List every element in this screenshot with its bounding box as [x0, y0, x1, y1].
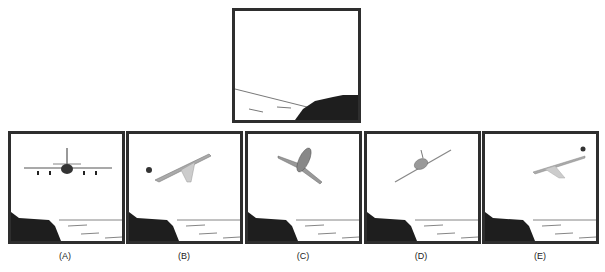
- cliff-shape: [11, 212, 61, 241]
- option-panel-b[interactable]: [126, 131, 243, 244]
- option-label-e: (E): [520, 251, 560, 261]
- scene-d: [367, 134, 478, 241]
- scene-c: [248, 134, 359, 241]
- option-label-b: (B): [164, 251, 204, 261]
- cliff-shape: [485, 212, 535, 241]
- option-panel-e[interactable]: [482, 131, 599, 244]
- reference-panel: [232, 8, 361, 123]
- airplane-side-icon: [533, 156, 585, 178]
- scene-a: [11, 134, 122, 241]
- cliff-shape: [248, 212, 298, 241]
- airplane-banking-icon: [395, 150, 451, 182]
- cliff-shape: [295, 95, 358, 120]
- option-label-c: (C): [283, 251, 323, 261]
- airplane-side-icon: [155, 154, 211, 182]
- reference-scene: [235, 11, 358, 120]
- airplane-climbing-icon: [278, 146, 322, 184]
- option-panel-c[interactable]: [245, 131, 362, 244]
- scene-e: [485, 134, 596, 241]
- scene-b: [129, 134, 240, 241]
- option-panel-d[interactable]: [364, 131, 481, 244]
- option-panel-a[interactable]: [8, 131, 125, 244]
- option-label-d: (D): [401, 251, 441, 261]
- cliff-shape: [367, 212, 417, 241]
- option-label-a: (A): [45, 251, 85, 261]
- cliff-shape: [129, 212, 179, 241]
- sun-icon: [146, 167, 152, 173]
- airplane-front-icon: [24, 148, 112, 175]
- sun-icon: [581, 147, 586, 152]
